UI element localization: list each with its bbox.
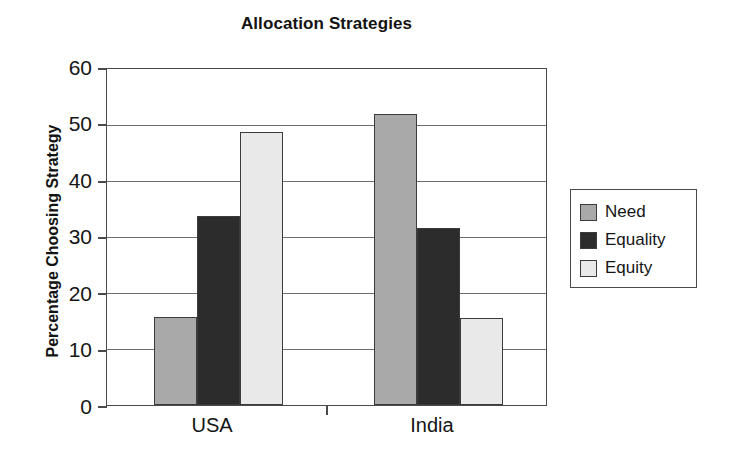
legend-item-equality[interactable]: Equality [580,226,696,254]
bar-usa-need[interactable] [154,317,197,405]
y-tick-label-30: 30 [32,226,92,247]
bar-india-equity[interactable] [460,318,503,405]
legend-swatch-equity-icon [580,260,597,277]
x-axis-label-usa: USA [142,414,282,437]
chart-title: Allocation Strategies [106,14,547,34]
y-tick-label-20: 20 [32,283,92,304]
legend-label-need: Need [605,202,646,222]
legend: Need Equality Equity [570,189,697,288]
bar-chart-figure: Allocation Strategies Percentage Choosin… [0,0,731,450]
bar-india-equality[interactable] [417,228,460,405]
bar-usa-equality[interactable] [197,216,240,405]
legend-swatch-equality-icon [580,232,597,249]
legend-swatch-need-icon [580,204,597,221]
y-axis-tick-labels: 60 50 40 30 20 10 0 [24,0,92,450]
gridline-40 [107,181,546,182]
x-axis-label-india: India [362,414,502,437]
y-tick-label-60: 60 [32,57,92,78]
x-tick-mark-center [326,406,328,415]
bar-india-need[interactable] [374,114,417,405]
y-tick-label-50: 50 [32,113,92,134]
legend-label-equality: Equality [605,230,665,250]
gridline-50 [107,125,546,126]
gridline-20 [107,293,546,294]
y-tick-label-40: 40 [32,170,92,191]
gridline-30 [107,237,546,238]
y-tick-label-10: 10 [32,339,92,360]
plot-area [106,68,547,406]
y-tick-mark-0 [98,406,107,408]
y-tick-label-0: 0 [32,396,92,417]
legend-item-equity[interactable]: Equity [580,254,696,282]
legend-item-need[interactable]: Need [580,198,696,226]
bar-usa-equity[interactable] [240,132,283,405]
legend-label-equity: Equity [605,258,652,278]
